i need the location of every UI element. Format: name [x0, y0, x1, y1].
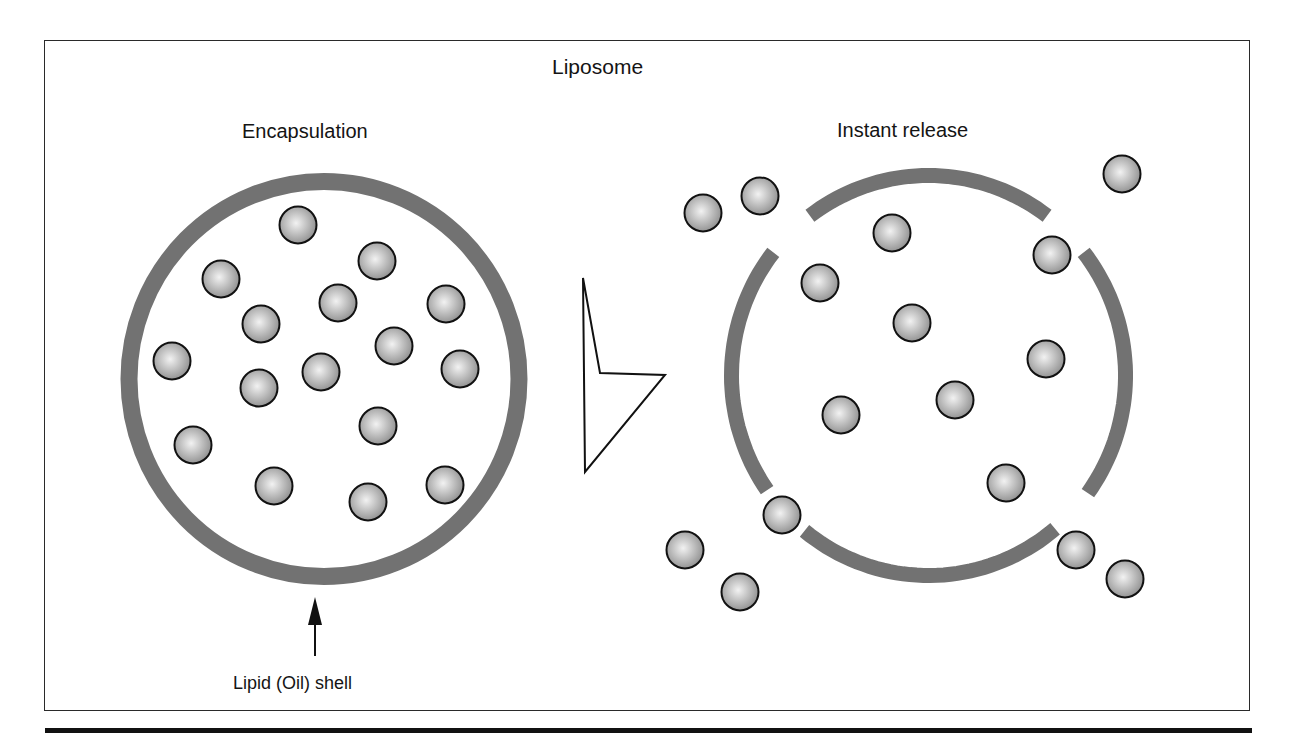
particle [988, 465, 1025, 502]
liposome-diagram [0, 0, 1291, 746]
particle [303, 354, 340, 391]
particle [1034, 237, 1071, 274]
instant-release-label: Instant release [837, 120, 968, 140]
particle [154, 343, 191, 380]
shell-fragment-right [1084, 252, 1126, 493]
particle [1104, 156, 1141, 193]
particle [894, 305, 931, 342]
shell-fragment-top [810, 176, 1047, 216]
particle [802, 265, 839, 302]
particle [937, 382, 974, 419]
particle [280, 207, 317, 244]
lipid-shell-label: Lipid (Oil) shell [233, 674, 352, 692]
particle [320, 285, 357, 322]
particle [243, 306, 280, 343]
particle [360, 408, 397, 445]
particle [442, 351, 479, 388]
particle [175, 427, 212, 464]
particle [823, 397, 860, 434]
encapsulation-label: Encapsulation [242, 121, 368, 141]
particle [685, 195, 722, 232]
particle [427, 467, 464, 504]
particle [1107, 561, 1144, 598]
particle [764, 497, 801, 534]
particle [203, 261, 240, 298]
particle [667, 532, 704, 569]
encapsulated-particles [154, 207, 479, 521]
shell-pointer-arrow [308, 597, 322, 656]
transition-arrow-icon [583, 278, 665, 472]
particle [874, 215, 911, 252]
particle [241, 370, 278, 407]
particle [350, 484, 387, 521]
arrow-head-icon [308, 597, 322, 625]
particle [1028, 341, 1065, 378]
shell-fragment-bottom [805, 529, 1056, 576]
particle [359, 243, 396, 280]
particle [722, 574, 759, 611]
particle [742, 178, 779, 215]
particle [1058, 532, 1095, 569]
chevron-arrow [583, 278, 665, 472]
figure-title: Liposome [552, 56, 643, 77]
particle [428, 286, 465, 323]
shell-fragment-left [732, 252, 774, 490]
particle [256, 468, 293, 505]
particle [376, 328, 413, 365]
